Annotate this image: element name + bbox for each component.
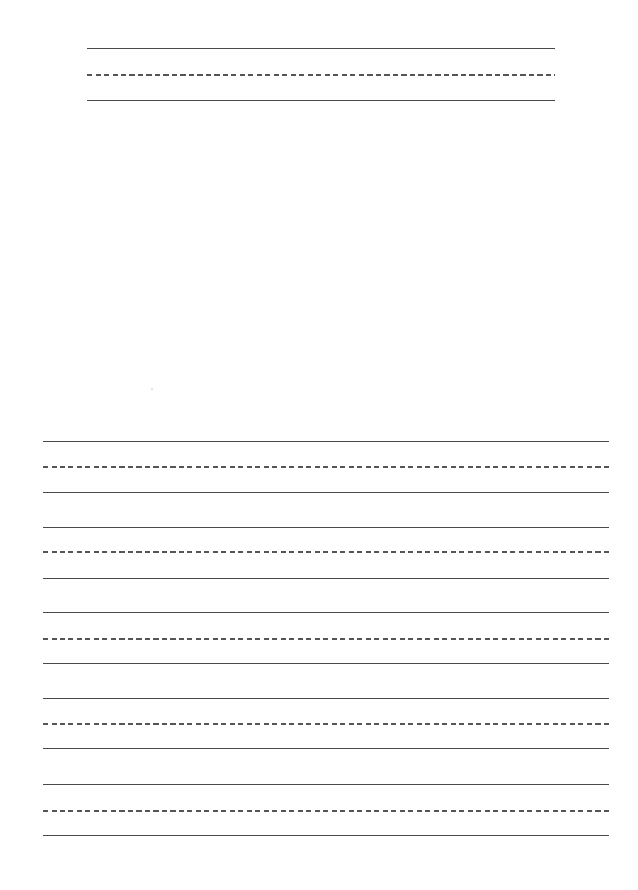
title-midline-dashed [87,74,555,76]
top-line [43,612,609,613]
baseline [43,748,609,749]
top-line [43,527,609,528]
paper-speck [151,388,153,390]
midline-dashed [43,551,609,553]
top-line [43,441,609,442]
baseline [43,492,609,493]
baseline [43,663,609,664]
title-solid-line [87,100,555,101]
title-solid-line [87,48,555,49]
top-line [43,784,609,785]
baseline [43,578,609,579]
top-line [43,698,609,699]
midline-dashed [43,810,609,812]
midline-dashed [43,723,609,725]
midline-dashed [43,466,609,468]
baseline [43,835,609,836]
midline-dashed [43,638,609,640]
